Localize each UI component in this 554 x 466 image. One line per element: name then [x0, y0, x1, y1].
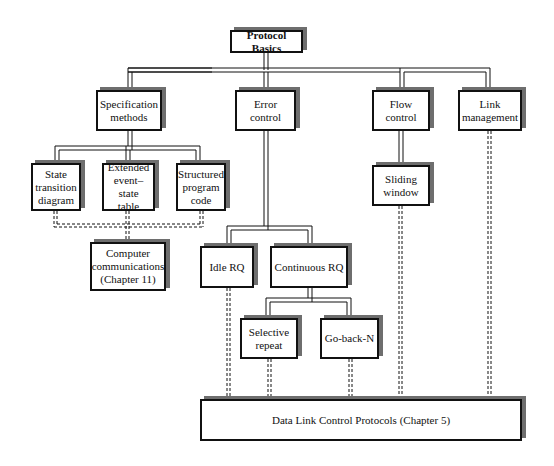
node-label: Error control	[250, 98, 281, 124]
node-label: Selective repeat	[249, 326, 289, 352]
node-label: Go-back-N	[325, 332, 374, 345]
node-specification-methods: Specification methods	[96, 90, 162, 131]
node-label: Protocol Basics	[234, 29, 299, 55]
node-label: Structured program code	[178, 168, 224, 207]
node-label: Flow control	[385, 98, 416, 124]
node-idle-rq: Idle RQ	[200, 246, 254, 288]
node-protocol-basics: Protocol Basics	[230, 30, 303, 53]
node-go-back-n: Go-back-N	[320, 318, 379, 359]
node-data-link-control-protocols: Data Link Control Protocols (Chapter 5)	[200, 399, 522, 441]
node-label: Continuous RQ	[275, 261, 344, 274]
node-label: Specification methods	[100, 98, 158, 124]
node-label: Computer communications (Chapter 11)	[92, 247, 165, 286]
node-label: Link management	[462, 98, 518, 124]
node-structured-program-code: Structured program code	[176, 163, 226, 211]
node-state-transition-diagram: State transition diagram	[31, 163, 81, 211]
connector-lines	[0, 0, 554, 466]
node-label: Data Link Control Protocols (Chapter 5)	[272, 414, 450, 427]
node-flow-control: Flow control	[372, 90, 430, 131]
node-label: State transition diagram	[35, 168, 77, 207]
node-error-control: Error control	[235, 90, 296, 131]
node-label: Idle RQ	[209, 261, 244, 274]
node-extended-event-state-table: Extended event–state table	[102, 163, 155, 211]
node-label: Sliding window	[383, 173, 418, 199]
node-label: Extended event–state table	[106, 161, 151, 213]
node-computer-communications: Computer communications (Chapter 11)	[90, 242, 166, 291]
node-selective-repeat: Selective repeat	[240, 318, 298, 359]
node-continuous-rq: Continuous RQ	[270, 246, 348, 288]
node-sliding-window: Sliding window	[372, 165, 430, 206]
node-link-management: Link management	[458, 90, 522, 131]
